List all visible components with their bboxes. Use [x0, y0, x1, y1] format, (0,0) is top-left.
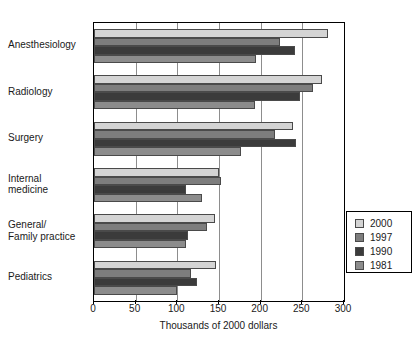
y-axis-label-line: Pediatrics [8, 271, 84, 283]
bar [94, 55, 256, 64]
bar [94, 177, 221, 186]
y-axis-category-radiology: Radiology [0, 86, 84, 98]
y-axis-label-line: Internal [8, 173, 84, 185]
legend-item-1997: 1997 [355, 231, 411, 244]
x-tick-label-50: 50 [129, 303, 140, 314]
bar [94, 101, 255, 110]
x-axis-title: Thousands of 2000 dollars [93, 320, 344, 331]
y-axis-category-general-family-practice: General/Family practice [0, 219, 84, 242]
bar [94, 286, 177, 295]
x-tick-label-200: 200 [251, 303, 268, 314]
bar [94, 185, 186, 194]
bar [94, 84, 313, 93]
x-axis-tick-labels: 050100150200250300 [0, 303, 366, 317]
bar [94, 214, 215, 223]
bar-group [94, 23, 344, 69]
bar [94, 194, 202, 203]
x-tick-label-250: 250 [293, 303, 310, 314]
bar-group [94, 162, 344, 208]
legend-swatch-icon [355, 261, 364, 270]
plot-area: 2000199719901981 [93, 22, 345, 302]
bar [94, 46, 295, 55]
bar [94, 29, 328, 38]
legend-swatch-icon [355, 219, 364, 228]
y-axis-category-pediatrics: Pediatrics [0, 271, 84, 283]
bar-series-layer [94, 23, 344, 301]
legend-label: 1990 [370, 247, 392, 257]
bar [94, 147, 241, 156]
bar [94, 92, 300, 101]
x-tick-label-100: 100 [168, 303, 185, 314]
bar [94, 231, 188, 240]
y-axis-category-internal-medicine: Internalmedicine [0, 173, 84, 196]
bar-group [94, 208, 344, 254]
y-axis-label-line: Surgery [8, 132, 84, 144]
bar [94, 130, 275, 139]
bar [94, 168, 219, 177]
bar [94, 278, 197, 287]
bar [94, 38, 280, 47]
chart-legend: 2000199719901981 [346, 211, 412, 273]
bar [94, 75, 322, 84]
y-axis-label-line: General/ [8, 219, 84, 231]
bar [94, 261, 216, 270]
bar-group [94, 255, 344, 301]
y-axis-label-line: medicine [8, 184, 84, 196]
x-tick-label-0: 0 [90, 303, 96, 314]
legend-item-1981: 1981 [355, 259, 411, 272]
bar [94, 139, 296, 148]
y-axis-label-line: Radiology [8, 86, 84, 98]
legend-label: 1997 [370, 233, 392, 243]
bar [94, 223, 207, 232]
bar-group [94, 69, 344, 115]
bar [94, 240, 186, 249]
legend-swatch-icon [355, 247, 364, 256]
x-tick-label-150: 150 [210, 303, 227, 314]
bar [94, 122, 293, 131]
y-axis-category-anesthesiology: Anesthesiology [0, 39, 84, 51]
bar-group [94, 116, 344, 162]
x-tick-label-300: 300 [335, 303, 352, 314]
bar [94, 269, 191, 278]
legend-item-1990: 1990 [355, 245, 411, 258]
y-axis-label-line: Anesthesiology [8, 39, 84, 51]
y-axis-label-line: Family practice [8, 231, 84, 243]
clipped-caption-text [8, 0, 208, 8]
legend-swatch-icon [355, 233, 364, 242]
legend-item-2000: 2000 [355, 217, 411, 230]
y-axis-category-labels: AnesthesiologyRadiologySurgeryInternalme… [0, 22, 88, 300]
legend-label: 2000 [370, 219, 392, 229]
legend-label: 1981 [370, 261, 392, 271]
y-axis-category-surgery: Surgery [0, 132, 84, 144]
